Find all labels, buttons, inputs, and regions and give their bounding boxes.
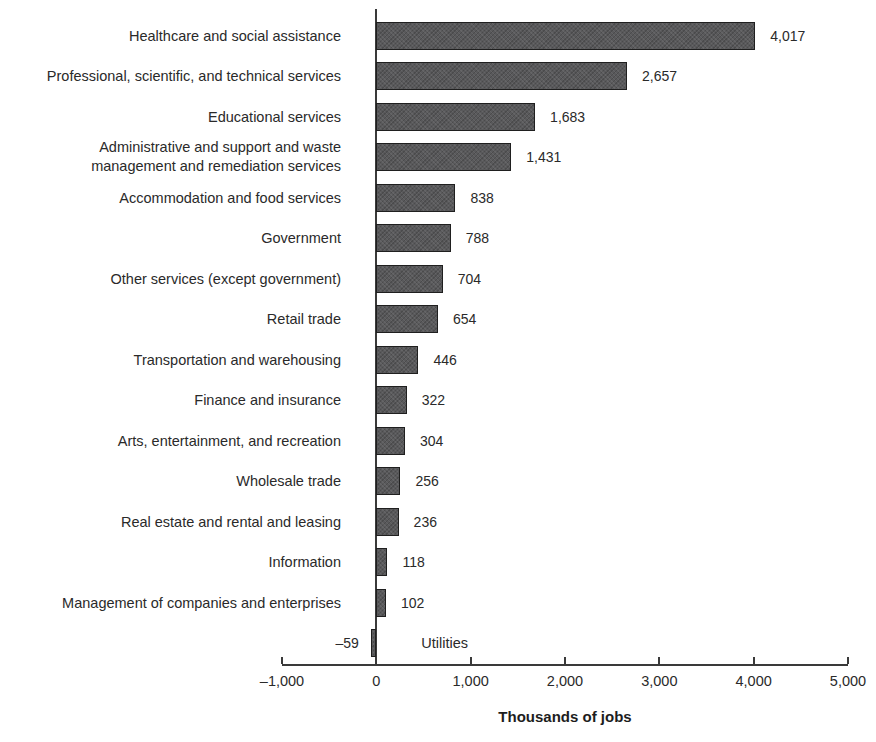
- x-axis-tick-mark: [847, 657, 849, 664]
- value-label: 102: [401, 595, 424, 611]
- value-label: 2,657: [642, 68, 677, 84]
- category-label: Arts, entertainment, and recreation: [0, 431, 341, 450]
- category-label: Information: [0, 553, 341, 572]
- value-label: 1,683: [550, 109, 585, 125]
- value-label: 4,017: [770, 28, 805, 44]
- bar: [376, 103, 535, 131]
- bar: [376, 386, 406, 414]
- category-label: Government: [0, 229, 341, 248]
- category-label: Management of companies and enterprises: [0, 593, 341, 612]
- x-axis-tick-mark: [281, 657, 283, 664]
- bar: [376, 265, 442, 293]
- x-axis-tick-mark: [564, 657, 566, 664]
- x-axis-title: Thousands of jobs: [498, 708, 631, 725]
- value-label: 256: [415, 473, 438, 489]
- bar: [376, 62, 627, 90]
- bar: [376, 184, 455, 212]
- category-label: Professional, scientific, and technical …: [0, 67, 341, 86]
- bar: [376, 589, 386, 617]
- value-label: 654: [453, 311, 476, 327]
- bar: [376, 224, 450, 252]
- value-label: 236: [414, 514, 437, 530]
- category-label: Finance and insurance: [0, 391, 341, 410]
- category-label: Retail trade: [0, 310, 341, 329]
- x-axis-tick-label: 0: [372, 673, 380, 689]
- bar: [376, 427, 405, 455]
- bar-chart: Healthcare and social assistance4,017Pro…: [0, 0, 876, 742]
- category-label: Accommodation and food services: [0, 188, 341, 207]
- category-label: Administrative and support and waste man…: [0, 138, 341, 176]
- bar: [371, 629, 377, 657]
- category-label: Healthcare and social assistance: [0, 26, 341, 45]
- value-label: 1,431: [526, 149, 561, 165]
- value-label: 118: [402, 554, 424, 570]
- x-axis-tick-label: –1,000: [260, 673, 304, 689]
- bar: [376, 548, 387, 576]
- bar: [376, 22, 755, 50]
- x-axis-tick-label: 2,000: [547, 673, 583, 689]
- x-axis-tick-label: 1,000: [453, 673, 489, 689]
- value-label: 304: [420, 433, 443, 449]
- x-axis-tick-label: 5,000: [830, 673, 866, 689]
- category-label: Utilities: [421, 634, 468, 653]
- category-label: Educational services: [0, 107, 341, 126]
- value-label: 446: [433, 352, 456, 368]
- x-axis-line: [282, 664, 848, 666]
- bar: [376, 346, 418, 374]
- bar: [376, 305, 438, 333]
- value-label: 322: [422, 392, 445, 408]
- value-label: 838: [470, 190, 493, 206]
- x-axis-tick-label: 3,000: [641, 673, 677, 689]
- bar: [376, 508, 398, 536]
- category-label: Wholesale trade: [0, 472, 341, 491]
- value-label: 788: [466, 230, 489, 246]
- x-axis-tick-label: 4,000: [736, 673, 772, 689]
- category-label: Real estate and rental and leasing: [0, 512, 341, 531]
- category-label: Transportation and warehousing: [0, 350, 341, 369]
- bar: [376, 467, 400, 495]
- x-axis-tick-mark: [470, 657, 472, 664]
- bar: [376, 143, 511, 171]
- value-label: 704: [458, 271, 481, 287]
- x-axis-tick-mark: [658, 657, 660, 664]
- x-axis-tick-mark: [753, 657, 755, 664]
- category-label: Other services (except government): [0, 269, 341, 288]
- value-label: –59: [259, 635, 359, 651]
